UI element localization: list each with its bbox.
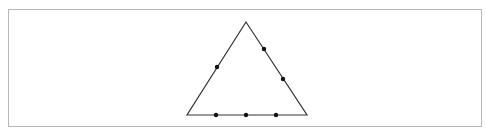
point-right-1 xyxy=(262,47,266,51)
points-group xyxy=(214,47,285,117)
point-bottom-5 xyxy=(274,113,278,117)
triangle-outline xyxy=(187,22,307,115)
point-right-2 xyxy=(281,77,285,81)
triangle-diagram xyxy=(0,0,486,138)
point-bottom-3 xyxy=(214,113,218,117)
point-bottom-4 xyxy=(244,113,248,117)
point-left-0 xyxy=(215,65,219,69)
